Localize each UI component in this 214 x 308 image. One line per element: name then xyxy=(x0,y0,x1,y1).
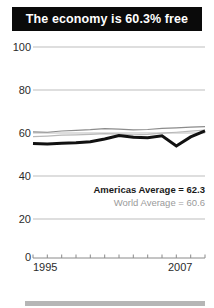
series-lines xyxy=(33,127,205,146)
x-tick-label-end: 2007 xyxy=(168,262,192,273)
economic-freedom-chart-card: { "header": { "title": "The economy is 6… xyxy=(0,0,214,308)
footer-divider xyxy=(25,301,205,306)
x-tick-label-start: 1995 xyxy=(33,262,57,273)
chart-legend: Americas Average = 62.3 World Average = … xyxy=(93,184,205,209)
series-line-americas-average xyxy=(33,127,205,133)
plot-svg xyxy=(0,36,214,286)
page-title: The economy is 60.3% free xyxy=(26,12,188,26)
x-axis xyxy=(33,255,205,259)
legend-world-average: World Average = 60.6 xyxy=(93,197,205,210)
chart-title-banner: The economy is 60.3% free xyxy=(12,7,202,31)
legend-americas-average: Americas Average = 62.3 xyxy=(93,184,205,197)
chart-area: 100 80 60 40 20 0 xyxy=(0,36,214,286)
